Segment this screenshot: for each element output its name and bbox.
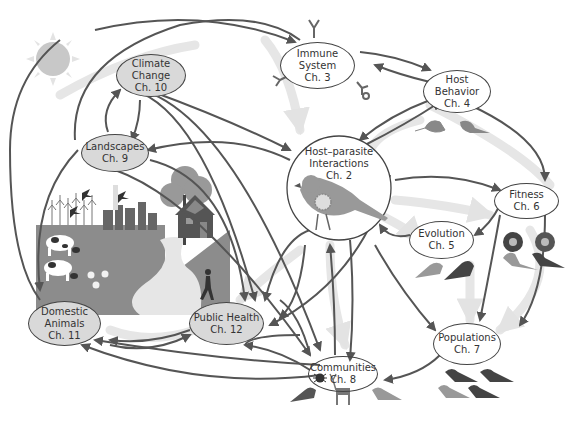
node-immune-system[interactable]: Immune System Ch. 3 bbox=[280, 42, 355, 89]
node-label-line: Ch. 8 bbox=[330, 374, 356, 386]
node-host-behavior[interactable]: Host Behavior Ch. 4 bbox=[423, 70, 491, 113]
node-label-line: Populations bbox=[438, 332, 496, 344]
node-label-line: Change bbox=[132, 70, 170, 82]
node-evolution[interactable]: Evolution Ch. 5 bbox=[409, 221, 474, 259]
node-communities[interactable]: Communities Ch. 8 bbox=[308, 356, 378, 392]
node-label-line: Landscapes bbox=[86, 141, 145, 153]
node-label-line: Evolution bbox=[418, 228, 465, 240]
node-fitness[interactable]: Fitness Ch. 6 bbox=[494, 183, 559, 219]
node-label-line: Public Health bbox=[194, 312, 260, 324]
node-populations[interactable]: Populations Ch. 7 bbox=[433, 323, 501, 365]
node-label-line: Interactions bbox=[279, 158, 399, 170]
node-climate-change[interactable]: Climate Change Ch. 10 bbox=[116, 54, 186, 97]
node-label-line: Host bbox=[446, 74, 469, 86]
node-label-line: Domestic bbox=[41, 306, 88, 318]
node-label-line: Ch. 7 bbox=[454, 344, 480, 356]
node-label-line: Ch. 11 bbox=[48, 330, 80, 342]
sun-icon bbox=[26, 32, 80, 86]
node-label-line: Ch. 12 bbox=[210, 324, 242, 336]
node-label-line: Behavior bbox=[435, 86, 479, 98]
node-label-line: Ch. 6 bbox=[513, 201, 539, 213]
bird-group-populations bbox=[438, 369, 514, 398]
city-skyline-icon bbox=[103, 185, 157, 230]
node-label-line: Ch. 5 bbox=[428, 240, 454, 252]
node-label-line: Immune bbox=[297, 48, 338, 60]
node-host-parasite-interactions[interactable]: Host–parasite Interactions Ch. 2 bbox=[279, 146, 399, 182]
node-label-line: Ch. 10 bbox=[135, 82, 167, 94]
node-label-line: Ch. 9 bbox=[102, 153, 128, 165]
node-label-line: System bbox=[299, 60, 336, 72]
node-label-line: Ch. 3 bbox=[304, 72, 330, 84]
bird-group-evolution bbox=[415, 261, 474, 280]
node-domestic-animals[interactable]: Domestic Animals Ch. 11 bbox=[28, 301, 101, 346]
node-public-health[interactable]: Public Health Ch. 12 bbox=[189, 302, 264, 345]
node-label-line: Communities bbox=[310, 362, 376, 374]
node-label-line: Ch. 4 bbox=[444, 98, 470, 110]
node-label-line: Animals bbox=[45, 318, 85, 330]
node-landscapes[interactable]: Landscapes Ch. 9 bbox=[81, 134, 149, 172]
node-label-line: Climate bbox=[132, 58, 170, 70]
node-label-line: Fitness bbox=[509, 189, 544, 201]
node-label-line: Host–parasite bbox=[279, 146, 399, 158]
node-label-line: Ch. 2 bbox=[279, 170, 399, 182]
